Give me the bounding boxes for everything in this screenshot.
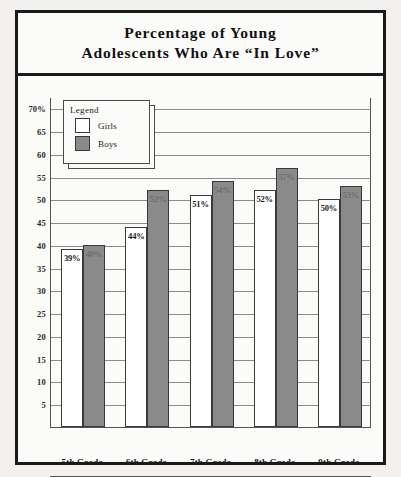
bar-girls: 51% <box>190 195 212 427</box>
chart-title-box: Percentage of Young Adolescents Who Are … <box>18 13 383 76</box>
y-axis-tick-label: 35 <box>37 264 46 274</box>
y-axis-tick-label: 30 <box>37 286 46 296</box>
y-axis-tick-label: 5 <box>42 400 46 410</box>
bar-value-label: 50% <box>321 203 337 213</box>
bar-group: 51%54% <box>190 98 234 427</box>
legend-item-boys: Boys <box>70 136 143 151</box>
bar-boys: 54% <box>212 181 234 427</box>
legend-item-girls: Girls <box>70 118 143 133</box>
page-title-line-1: Percentage of Young <box>124 23 276 43</box>
bar-value-label: 40% <box>86 249 102 259</box>
y-axis-tick-label: 40 <box>37 241 46 251</box>
y-axis-tick-label: 25 <box>37 309 46 319</box>
bar-value-label: 53% <box>343 190 359 200</box>
bar-value-label: 54% <box>214 185 230 195</box>
legend-swatch-boys <box>75 136 90 151</box>
y-axis-tick-label: 70% <box>28 104 46 114</box>
bar-group: 52%57% <box>254 98 298 427</box>
y-axis-tick-label: 15 <box>37 355 46 365</box>
legend-heading: Legend <box>70 105 143 115</box>
bar-boys: 57% <box>276 168 298 427</box>
y-axis-tick-label: 60 <box>37 150 46 160</box>
x-axis-label: 7th Grade <box>190 457 231 467</box>
legend-label-girls: Girls <box>98 121 117 131</box>
legend-box: Legend Girls Boys <box>63 100 150 164</box>
y-axis-tick-label: 20 <box>37 332 46 342</box>
bar-value-label: 52% <box>256 194 272 204</box>
bar-group: 50%53% <box>318 98 362 427</box>
page-title-line-2: Adolescents Who Are “In Love” <box>81 43 319 63</box>
x-axis: 5th Grade6th Grade7th Grade8th Grade9th … <box>50 450 371 477</box>
y-axis-tick-label: 10 <box>37 377 46 387</box>
y-axis-tick-label: 55 <box>37 173 46 183</box>
x-axis-label: 9th Grade <box>318 457 359 467</box>
x-axis-label: 6th Grade <box>126 457 167 467</box>
y-axis-tick-label: 45 <box>37 218 46 228</box>
chart-plot-container: 510152025303540455055606570% 39%40%44%52… <box>18 76 383 462</box>
bar-value-label: 44% <box>128 231 144 241</box>
bar-value-label: 52% <box>150 194 166 204</box>
bar-boys: 53% <box>340 186 362 427</box>
legend-swatch-girls <box>75 118 90 133</box>
x-axis-label: 5th Grade <box>62 457 103 467</box>
bar-girls: 50% <box>318 199 340 427</box>
bar-girls: 44% <box>125 227 147 427</box>
y-axis-tick-label: 50 <box>37 195 46 205</box>
bar-value-label: 39% <box>64 253 80 263</box>
bar-value-label: 57% <box>278 172 294 182</box>
bar-boys: 52% <box>147 190 169 427</box>
chart-frame: Percentage of Young Adolescents Who Are … <box>15 10 386 465</box>
x-axis-label: 8th Grade <box>254 457 295 467</box>
legend: Legend Girls Boys <box>63 100 155 169</box>
legend-label-boys: Boys <box>98 139 117 149</box>
y-axis-tick-label: 65 <box>37 127 46 137</box>
bar-boys: 40% <box>83 245 105 427</box>
bar-girls: 39% <box>61 249 83 427</box>
bar-girls: 52% <box>254 190 276 427</box>
bar-value-label: 51% <box>192 199 208 209</box>
plot-right-border <box>370 98 372 427</box>
